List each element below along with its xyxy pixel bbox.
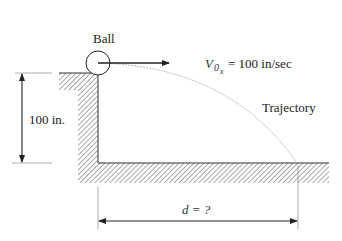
cliff [59, 73, 329, 183]
trajectory-label: Trajectory [262, 100, 316, 115]
velocity-value: = 100 in/sec [228, 56, 292, 71]
projectile-diagram: Ball V 0 x = 100 in/sec Trajectory 100 i… [0, 0, 342, 241]
distance-label: d = ? [182, 202, 211, 217]
ball-label: Ball [93, 31, 115, 46]
height-label: 100 in. [29, 112, 65, 127]
velocity-label: V 0 x = 100 in/sec [205, 56, 292, 76]
cliff-hatch [59, 73, 329, 183]
velocity-subsubscript: x [219, 67, 224, 76]
velocity-subscript: 0 [214, 62, 219, 73]
cliff-edge [59, 73, 329, 163]
height-dimension: 100 in. [12, 73, 65, 163]
